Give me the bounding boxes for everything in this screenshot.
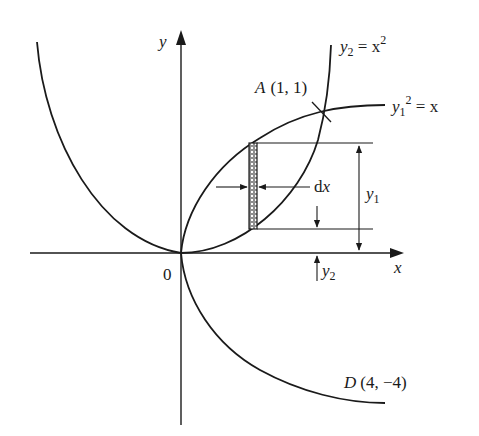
- svg-text:y2 = x2: y2 = x2: [338, 33, 386, 59]
- diagram-canvas: y x 0 y2 = x2 y12 = x A(1, 1) D(4, −4): [0, 0, 479, 436]
- y-axis: [176, 30, 186, 425]
- label-y1: y1: [364, 184, 380, 206]
- svg-text:D(4, −4): D(4, −4): [343, 373, 407, 392]
- svg-text:dx: dx: [314, 177, 331, 196]
- svg-text:y12 = x: y12 = x: [390, 93, 439, 119]
- curve-y1-squared-equals-x: [181, 105, 385, 403]
- y-axis-arrow-icon: [176, 30, 186, 45]
- label-dx: dx: [314, 177, 331, 196]
- label-point-a: A(1, 1): [254, 78, 307, 97]
- x-axis-arrow-icon: [390, 248, 404, 258]
- x-axis-label: x: [393, 258, 402, 277]
- svg-text:y2: y2: [320, 261, 336, 283]
- area-between-curves-diagram: y x 0 y2 = x2 y12 = x A(1, 1) D(4, −4): [0, 0, 479, 436]
- point-a-marker: [312, 102, 331, 122]
- origin-label: 0: [163, 265, 172, 284]
- svg-text:A(1, 1): A(1, 1): [254, 78, 307, 97]
- y-axis-label: y: [157, 32, 167, 51]
- elemental-strip: [249, 143, 257, 229]
- label-y2-equals-x-squared: y2 = x2: [338, 33, 386, 59]
- x-axis: [30, 248, 404, 258]
- label-y1-squared-equals-x: y12 = x: [390, 93, 439, 119]
- svg-text:y1: y1: [364, 184, 380, 206]
- curve-y2-equals-x-squared: [37, 42, 331, 253]
- label-point-d: D(4, −4): [343, 373, 407, 392]
- label-y2: y2: [320, 261, 336, 283]
